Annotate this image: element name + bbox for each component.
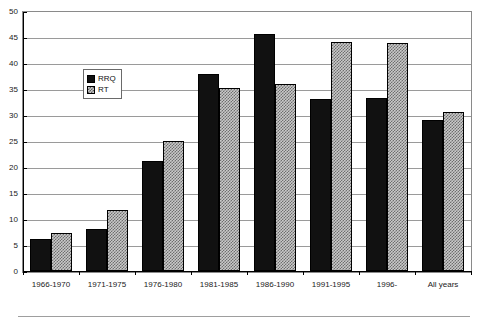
y-tick-label: 10 (0, 216, 18, 224)
legend-label-rrq: RRQ (98, 74, 116, 83)
legend-swatch-rrq-icon (87, 75, 95, 83)
y-tick-label: 20 (0, 164, 18, 172)
x-tick-label: 1971-1975 (79, 280, 135, 289)
legend-item-rrq: RRQ (87, 73, 116, 84)
gridline (23, 38, 471, 39)
bar-rrq (254, 34, 275, 271)
bar-rrq (366, 98, 387, 271)
bar-rrq (30, 239, 51, 271)
bar-rt (219, 88, 240, 271)
y-tick-label: 50 (0, 8, 18, 16)
x-tick-label: 1996- (359, 280, 415, 289)
bar-rt (331, 42, 352, 271)
y-tick-label: 40 (0, 60, 18, 68)
x-tick-mark (135, 271, 136, 275)
x-tick-mark (23, 271, 24, 275)
bottom-divider (18, 316, 470, 317)
x-tick-label: 1991-1995 (303, 280, 359, 289)
bar-chart: RRQ RT 05101520253035404550 1966-1970197… (0, 0, 485, 325)
x-tick-label: 1966-1970 (23, 280, 79, 289)
bar-rt (107, 210, 128, 271)
x-tick-mark (303, 271, 304, 275)
bar-rt (387, 43, 408, 271)
bar-rt (163, 141, 184, 271)
x-tick-mark (191, 271, 192, 275)
x-tick-mark (359, 271, 360, 275)
y-tick-label: 5 (0, 242, 18, 250)
x-tick-mark (79, 271, 80, 275)
x-tick-label: All years (415, 280, 471, 289)
y-tick-label: 0 (0, 268, 18, 276)
x-tick-mark (471, 271, 472, 275)
legend-item-rt: RT (87, 84, 116, 95)
x-tick-label: 1976-1980 (135, 280, 191, 289)
legend-label-rt: RT (98, 85, 109, 94)
bar-rt (51, 233, 72, 271)
x-tick-label: 1981-1985 (191, 280, 247, 289)
y-axis-line (23, 12, 24, 272)
bar-rt (275, 84, 296, 271)
y-tick-label: 45 (0, 34, 18, 42)
y-tick-label: 15 (0, 190, 18, 198)
plot-area: RRQ RT (22, 11, 472, 273)
bar-rrq (198, 74, 219, 271)
bar-rt (443, 112, 464, 271)
chart-legend: RRQ RT (83, 69, 122, 99)
bar-rrq (86, 229, 107, 271)
y-tick-label: 30 (0, 112, 18, 120)
bar-rrq (142, 161, 163, 271)
y-tick-label: 25 (0, 138, 18, 146)
bar-rrq (422, 120, 443, 271)
y-tick-label: 35 (0, 86, 18, 94)
bar-rrq (310, 99, 331, 271)
x-tick-label: 1986-1990 (247, 280, 303, 289)
x-tick-mark (247, 271, 248, 275)
legend-swatch-rt-icon (87, 86, 95, 94)
x-tick-mark (415, 271, 416, 275)
